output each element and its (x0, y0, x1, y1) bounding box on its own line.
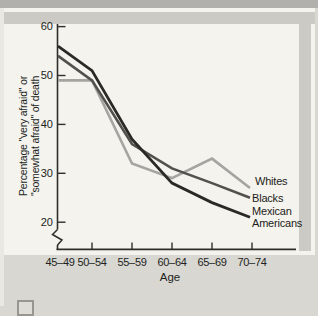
x-tick-label: 50–54 (72, 256, 112, 269)
x-tick-label: 70–74 (232, 256, 272, 269)
series-label-blacks: Blacks (252, 193, 283, 205)
series-label-line: Whites (255, 176, 287, 188)
series-label-mexican-americans: MexicanAmericans (252, 206, 302, 229)
figure-number-box (17, 300, 34, 316)
series-label-line: Americans (252, 218, 302, 230)
series-label-line: Blacks (252, 193, 283, 205)
y-axis-title: Percentage "very afraid" or "somewhat af… (17, 50, 41, 222)
series-label-line: Mexican (252, 206, 302, 218)
x-axis-title: Age (150, 271, 190, 283)
x-tick-label: 55–59 (112, 256, 152, 269)
series-label-whites: Whites (255, 176, 287, 188)
x-tick-label: 65–69 (192, 256, 232, 269)
x-tick-label: 60–64 (152, 256, 192, 269)
top-strip (0, 0, 318, 8)
y-axis-title-line2: "somewhat afraid" of death (29, 50, 41, 222)
y-tick-label: 60 (27, 20, 53, 33)
y-axis-title-line1: Percentage "very afraid" or (17, 50, 29, 222)
